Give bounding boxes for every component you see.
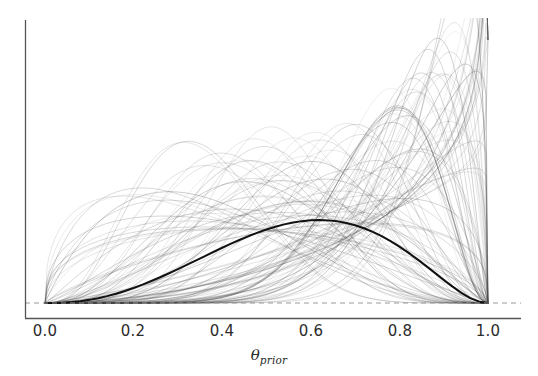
x-tick-4: 0.8 (370, 322, 430, 340)
prior-sample-curves (45, 0, 488, 303)
x-tick-2: 0.4 (192, 322, 252, 340)
x-tick-3: 0.6 (281, 322, 341, 340)
x-tick-1: 0.2 (103, 322, 163, 340)
prior-density-plot (0, 0, 538, 376)
chart-figure: 0.0 0.2 0.4 0.6 0.8 1.0 θprior (0, 0, 538, 376)
x-axis-label-theta: θ (251, 346, 260, 364)
x-axis-label: θprior (0, 345, 538, 366)
prior-sample-curve (45, 109, 488, 303)
x-axis-label-subscript: prior (260, 354, 287, 366)
x-tick-0: 0.0 (15, 322, 75, 340)
x-tick-5: 1.0 (458, 322, 518, 340)
